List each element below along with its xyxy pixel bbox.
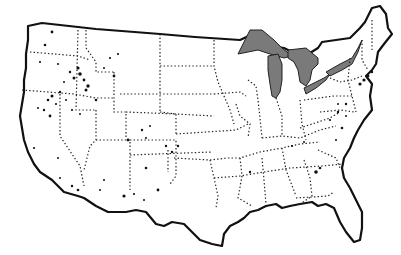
us-outline: [20, 6, 392, 246]
us-map: [0, 0, 401, 255]
